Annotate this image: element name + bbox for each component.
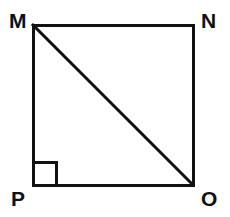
geometry-figure-canvas: M N O P [0,0,230,217]
vertex-label-o: O [201,188,217,209]
right-angle-marker-icon [33,162,56,185]
vertex-label-p: P [11,188,25,209]
vertex-label-n: N [201,10,216,31]
geometry-figure-svg [0,0,230,217]
vertex-label-m: M [9,10,27,31]
